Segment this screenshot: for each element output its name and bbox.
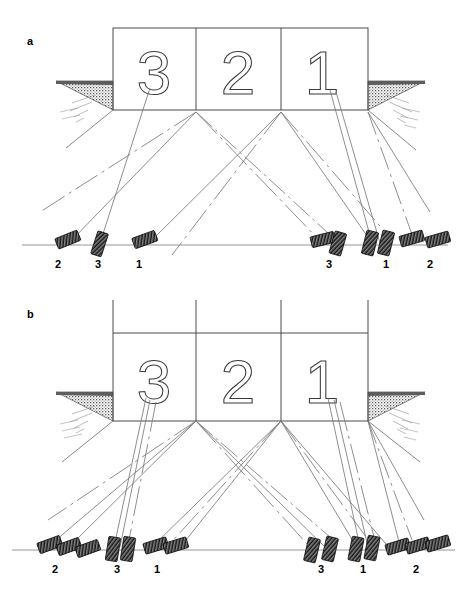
station-label-a-4: 1 bbox=[383, 258, 389, 270]
station-label-b-2: 1 bbox=[154, 563, 160, 575]
panel-b: b 3 2 1 bbox=[12, 300, 455, 575]
marker-cluster-a-right-1 bbox=[361, 230, 394, 256]
station-label-b-5: 2 bbox=[413, 563, 419, 575]
marker-cluster-a-left-2 bbox=[55, 230, 81, 249]
wall-bay-digits-a: 3 2 1 bbox=[137, 38, 339, 107]
right-abutment-wedge-a bbox=[368, 81, 425, 150]
marker-cluster-a-left-1 bbox=[132, 230, 158, 249]
panel-a: a 3 2 1 bbox=[22, 28, 451, 270]
wall-digit-3-b: 3 bbox=[137, 347, 171, 416]
wall-digit-3-a: 3 bbox=[137, 38, 171, 107]
marker-cluster-b-left-3 bbox=[105, 536, 136, 562]
station-label-b-1: 3 bbox=[114, 563, 120, 575]
marker-cluster-b-left-2 bbox=[37, 535, 101, 558]
station-label-a-5: 2 bbox=[427, 258, 433, 270]
station-label-b-4: 1 bbox=[360, 563, 366, 575]
station-label-a-2: 1 bbox=[136, 258, 142, 270]
wall-bay-digits-b: 3 2 1 bbox=[137, 347, 339, 416]
marker-cluster-a-left-3 bbox=[91, 231, 109, 257]
station-label-b-3: 3 bbox=[318, 563, 324, 575]
wall-digit-2-a: 2 bbox=[221, 38, 255, 107]
left-abutment-wedge-b bbox=[56, 392, 113, 462]
station-label-a-0: 2 bbox=[55, 258, 61, 270]
wall-digit-1-a: 1 bbox=[305, 38, 339, 107]
station-label-a-3: 3 bbox=[326, 258, 332, 270]
marker-cluster-b-left-1 bbox=[143, 537, 189, 555]
right-abutment-wedge-b bbox=[368, 392, 425, 462]
wall-digit-1-b: 1 bbox=[305, 347, 339, 416]
wall-digit-2-b: 2 bbox=[221, 347, 255, 416]
station-label-a-1: 3 bbox=[95, 258, 101, 270]
station-label-b-0: 2 bbox=[52, 563, 58, 575]
left-abutment-wedge-a bbox=[56, 81, 113, 148]
marker-cluster-a-right-3 bbox=[310, 231, 347, 256]
marker-cluster-b-right-3 bbox=[303, 536, 338, 563]
marker-cluster-b-right-2 bbox=[385, 535, 451, 556]
marker-cluster-b-right-1 bbox=[348, 535, 380, 562]
panel-a-letter: a bbox=[27, 35, 34, 47]
station-labels-b: 2 3 1 3 1 2 bbox=[52, 563, 419, 575]
figure-root: a 3 2 1 bbox=[0, 0, 467, 594]
panel-b-letter: b bbox=[27, 308, 34, 320]
station-labels-a: 2 3 1 3 1 2 bbox=[55, 258, 433, 270]
